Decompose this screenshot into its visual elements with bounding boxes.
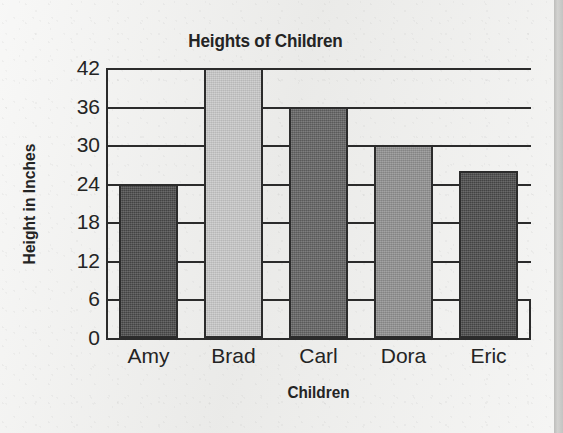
y-axis-tick-labels: 42363024181260: [52, 68, 100, 338]
chart-title: Heights of Children: [27, 30, 505, 52]
x-axis-line: [106, 338, 531, 340]
bar-eric: [459, 171, 518, 338]
chart-page: Heights of Children 42363024181260 AmyBr…: [0, 0, 563, 433]
x-tick-label-dora: Dora: [361, 345, 446, 366]
x-tick-label-carl: Carl: [276, 345, 361, 366]
y-tick-label: 42: [58, 57, 100, 78]
x-tick-label-amy: Amy: [106, 345, 191, 366]
y-tick-label: 24: [58, 173, 100, 194]
page-edge-margin: [554, 0, 563, 433]
y-tick-label: 6: [58, 288, 100, 309]
y-tick-label: 0: [58, 327, 100, 348]
x-tick-label-brad: Brad: [191, 345, 276, 366]
y-axis-title: Height in Inches: [20, 112, 40, 296]
plot-area: [106, 68, 531, 338]
bars-layer: [106, 68, 531, 338]
y-tick-label: 30: [58, 134, 100, 155]
x-axis-title: Children: [127, 383, 510, 403]
bar-dora: [374, 145, 433, 338]
bar-brad: [204, 68, 263, 338]
x-axis-tick-labels: AmyBradCarlDoraEric: [106, 345, 531, 375]
bar-carl: [289, 107, 348, 338]
x-tick-label-eric: Eric: [446, 345, 531, 366]
bar-amy: [119, 184, 178, 338]
y-tick-label: 36: [58, 96, 100, 117]
y-tick-label: 12: [58, 250, 100, 271]
y-tick-label: 18: [58, 211, 100, 232]
